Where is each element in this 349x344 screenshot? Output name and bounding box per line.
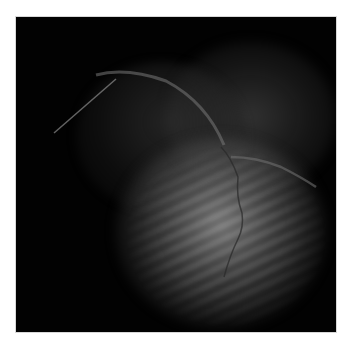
heart-contour (96, 72, 224, 145)
vessel-overlay (16, 17, 336, 332)
coronary-vessel-main (221, 147, 243, 277)
angiogram-image (16, 17, 336, 332)
coronary-vessel-branch (231, 157, 316, 187)
catheter-line (54, 79, 116, 133)
